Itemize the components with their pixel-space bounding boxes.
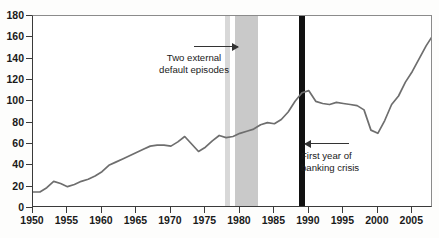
- x-axis-tick: [377, 207, 378, 213]
- x-axis-tick-label: 2005: [389, 214, 433, 226]
- y-axis-tick-label: 80: [0, 116, 24, 128]
- x-axis-tick: [66, 207, 67, 213]
- y-axis-tick-label: 160: [0, 30, 24, 42]
- y-axis-tick-label: 140: [0, 52, 24, 64]
- arrow-head: [304, 140, 311, 148]
- x-axis-tick: [170, 207, 171, 213]
- x-axis-tick: [239, 207, 240, 213]
- x-axis-tick: [204, 207, 205, 213]
- arrow-head: [232, 43, 239, 51]
- x-axis-tick: [101, 207, 102, 213]
- first-year-of-banking-crisis-label: First year of banking crisis: [301, 150, 401, 173]
- y-axis-tick-label: 180: [0, 9, 24, 21]
- y-axis-tick-label: 40: [0, 158, 24, 170]
- y-axis-tick-label: 60: [0, 137, 24, 149]
- first-year-of-banking-crisis-arrow: [305, 139, 349, 148]
- y-axis-tick-label: 20: [0, 180, 24, 192]
- x-axis-tick: [135, 207, 136, 213]
- x-axis-tick: [411, 207, 412, 213]
- two-external-default-episodes-arrow: [194, 42, 238, 51]
- y-axis-tick-label: 0: [0, 201, 24, 213]
- y-axis-tick-label: 100: [0, 94, 24, 106]
- x-axis-tick: [342, 207, 343, 213]
- y-axis-tick-label: 120: [0, 73, 24, 85]
- x-axis-tick: [32, 207, 33, 213]
- chart-figure: 020406080100120140160180 195019551960196…: [0, 0, 439, 238]
- x-axis-tick: [308, 207, 309, 213]
- two-external-default-episodes-label: Two external default episodes: [146, 52, 242, 75]
- x-axis-tick: [273, 207, 274, 213]
- arrow-shaft: [305, 143, 349, 144]
